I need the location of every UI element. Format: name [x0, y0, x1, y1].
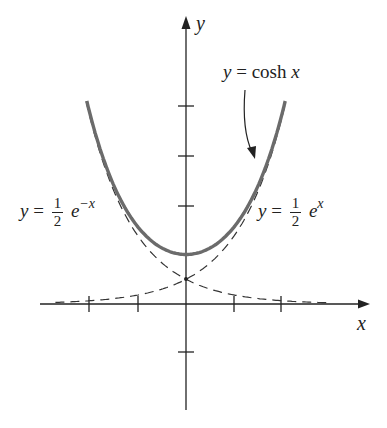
left-label-eq: =: [33, 200, 44, 221]
cosh-label-var: x: [291, 61, 299, 82]
cosh-label-eq: =: [236, 61, 247, 82]
left-label-exp: −x: [79, 196, 95, 211]
cosh-label-y: y: [223, 61, 231, 82]
right-label-exp: x: [317, 196, 323, 211]
annotation-arrowhead-icon: [247, 146, 256, 159]
half-exp-pos-label: y = 1 2 ex: [258, 196, 324, 229]
left-label-num: 1: [52, 196, 64, 213]
left-label-fraction: 1 2: [52, 196, 64, 229]
left-label-den: 2: [52, 213, 64, 229]
left-label-y: y: [20, 200, 28, 221]
right-label-fraction: 1 2: [290, 196, 302, 229]
y-axis-label: y: [196, 12, 205, 35]
right-label-num: 1: [290, 196, 302, 213]
cosh-diagram: y x y = cosh x y = 1 2 e−x y = 1 2 ex: [0, 0, 387, 428]
x-axis-label: x: [357, 312, 366, 335]
cosh-label-fn: cosh: [252, 61, 287, 82]
intersection-point: [184, 277, 188, 281]
right-label-eq: =: [271, 200, 282, 221]
x-axis-arrow-icon: [358, 300, 370, 309]
annotation-arrow: [244, 90, 252, 152]
right-label-den: 2: [290, 213, 302, 229]
right-label-y: y: [258, 200, 266, 221]
half-exp-neg-label: y = 1 2 e−x: [20, 196, 95, 229]
y-axis-arrow-icon: [182, 16, 191, 29]
cosh-label: y = cosh x: [223, 61, 300, 83]
